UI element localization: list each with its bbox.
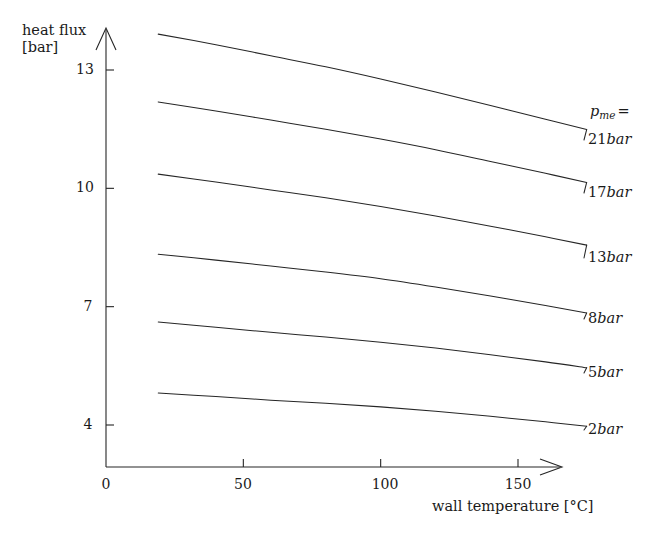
legend-variable-heading: pme=: [590, 103, 630, 119]
y-tick-label-7: 7: [78, 298, 98, 315]
x-tick-label-50: 50: [230, 476, 256, 493]
chart-label-leaders: [584, 130, 587, 430]
series-label-5bar-number: 5: [588, 364, 597, 380]
chart-series-lines: [158, 34, 586, 426]
chart-figure: heat flux [bar] wall temperature [°C] 13…: [0, 0, 672, 541]
series-leader-2bar: [584, 426, 587, 430]
series-leader-8bar: [584, 313, 587, 319]
series-label-2bar-number: 2: [588, 421, 597, 437]
chart-plot-area: [0, 0, 672, 541]
series-label-21bar-number: 21: [588, 131, 606, 147]
legend-variable-symbol: p: [590, 103, 599, 119]
series-leader-21bar: [584, 130, 587, 140]
series-label-5bar: 5bar: [588, 364, 622, 381]
series-label-21bar: 21bar: [588, 131, 631, 148]
x-tick-label-0: 0: [96, 476, 116, 493]
series-label-21bar-unit: bar: [606, 131, 631, 147]
series-label-13bar: 13bar: [588, 249, 631, 266]
x-tick-label-150: 150: [501, 476, 535, 493]
series-label-2bar: 2bar: [588, 421, 622, 438]
series-label-8bar: 8bar: [588, 310, 622, 327]
x-axis-title: wall temperature [°C]: [432, 498, 593, 515]
series-leader-17bar: [584, 182, 587, 193]
y-axis-title-line2: [bar]: [22, 39, 86, 56]
series-line-8bar: [158, 254, 586, 313]
series-label-8bar-unit: bar: [597, 310, 622, 326]
series-label-17bar-unit: bar: [606, 184, 631, 200]
y-axis-title: heat flux [bar]: [22, 22, 86, 56]
chart-axes: [96, 28, 562, 475]
series-label-8bar-number: 8: [588, 310, 597, 326]
series-label-13bar-number: 13: [588, 249, 606, 265]
y-tick-label-4: 4: [78, 416, 98, 433]
series-line-5bar: [158, 322, 586, 368]
series-leader-13bar: [584, 245, 587, 258]
x-tick-label-100: 100: [368, 476, 402, 493]
y-tick-label-13: 13: [72, 61, 98, 78]
series-label-13bar-unit: bar: [606, 249, 631, 265]
y-axis-title-line1: heat flux: [22, 22, 86, 39]
series-line-21bar: [158, 34, 586, 129]
series-line-13bar: [158, 174, 586, 245]
y-tick-label-10: 10: [72, 179, 98, 196]
series-label-17bar: 17bar: [588, 184, 631, 201]
series-label-17bar-number: 17: [588, 184, 606, 200]
legend-equals-sign: =: [615, 103, 629, 119]
legend-variable-subscript: me: [599, 109, 615, 121]
series-label-5bar-unit: bar: [597, 364, 622, 380]
series-line-2bar: [158, 393, 586, 426]
series-leader-5bar: [584, 368, 587, 373]
series-label-2bar-unit: bar: [597, 421, 622, 437]
